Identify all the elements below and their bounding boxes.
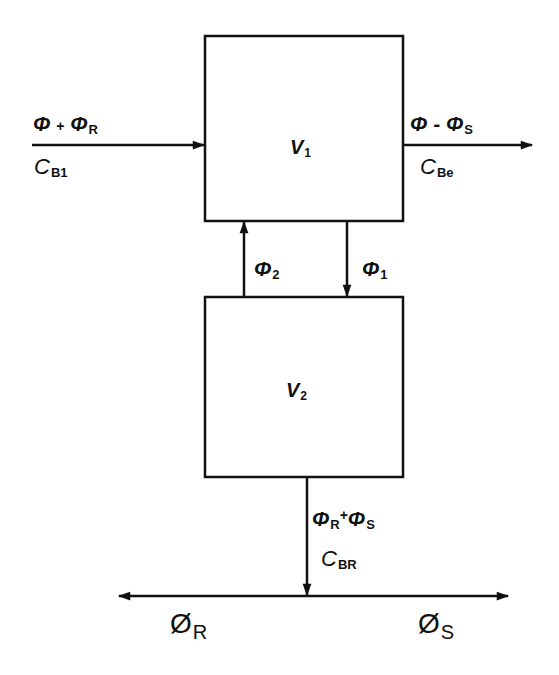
split-left-label: ØR <box>170 610 207 642</box>
phi2-label: Φ2 <box>254 258 280 281</box>
inflow-concentration-label: CB1 <box>34 156 68 179</box>
inflow-flow-label: Φ + ΦR <box>33 113 98 136</box>
split-right-label: ØS <box>418 610 454 642</box>
box-v1-label: V1 <box>290 137 311 159</box>
outflow-concentration-label: CBe <box>420 156 454 179</box>
v2-outflow-flow-label: ΦR+ΦS <box>312 508 375 531</box>
diagram-canvas <box>0 0 559 675</box>
box-v2-label: V2 <box>286 380 307 402</box>
box-v1 <box>205 36 403 221</box>
phi1-label: Φ1 <box>362 258 388 281</box>
outflow-flow-label: Φ - ΦS <box>410 113 473 136</box>
v2-outflow-concentration-label: CBR <box>321 548 357 571</box>
